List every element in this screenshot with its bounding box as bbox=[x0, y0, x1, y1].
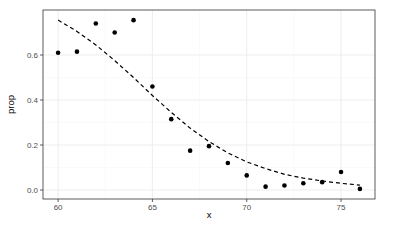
y-tick-label: 0.6 bbox=[27, 51, 39, 60]
data-point bbox=[169, 117, 174, 122]
x-axis-title: x bbox=[207, 209, 212, 220]
y-tick-label: 0.2 bbox=[27, 141, 39, 150]
data-points bbox=[56, 18, 362, 191]
data-point bbox=[150, 84, 155, 89]
y-axis: 0.00.20.40.6 bbox=[27, 51, 43, 195]
panel-border bbox=[43, 10, 375, 199]
data-point bbox=[263, 184, 268, 189]
x-axis: 60657075 bbox=[54, 199, 346, 212]
data-point bbox=[75, 49, 80, 54]
grid-major bbox=[43, 10, 375, 199]
fitted-curve bbox=[58, 20, 360, 185]
data-point bbox=[112, 30, 117, 35]
data-point bbox=[226, 161, 231, 166]
data-point bbox=[244, 173, 249, 178]
data-point bbox=[358, 187, 363, 192]
x-tick-label: 70 bbox=[242, 203, 251, 212]
x-tick-label: 75 bbox=[337, 203, 346, 212]
y-axis-title: prop bbox=[5, 95, 16, 114]
data-point bbox=[282, 183, 287, 188]
y-tick-label: 0.4 bbox=[27, 96, 39, 105]
grid-minor bbox=[43, 10, 375, 199]
data-point bbox=[131, 18, 136, 23]
data-point bbox=[56, 50, 61, 55]
data-point bbox=[207, 144, 212, 149]
data-point bbox=[320, 180, 325, 185]
fitted-dashed-line bbox=[58, 20, 360, 185]
data-point bbox=[339, 170, 344, 175]
y-tick-label: 0.0 bbox=[27, 186, 39, 195]
scatter-chart: 60657075 0.00.20.40.6 x prop bbox=[0, 0, 393, 229]
data-point bbox=[94, 21, 99, 26]
x-tick-label: 60 bbox=[54, 203, 63, 212]
data-point bbox=[301, 181, 306, 186]
data-point bbox=[188, 148, 193, 153]
x-tick-label: 65 bbox=[148, 203, 157, 212]
